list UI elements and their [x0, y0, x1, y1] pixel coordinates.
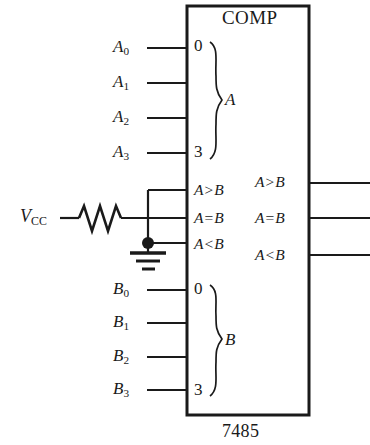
input-label-a1-sub: 1: [123, 80, 129, 92]
pin-number-b-first: 0: [194, 280, 203, 297]
output-label-a-lt-b: A<B: [255, 247, 285, 263]
device-part-number: 7485: [222, 422, 259, 440]
input-label-a2-sub: 2: [123, 115, 129, 127]
input-label-b0: B0: [113, 280, 129, 299]
input-label-b2: B2: [113, 347, 129, 366]
supply-label-vcc: VCC: [20, 207, 47, 228]
input-label-b1: B1: [113, 313, 129, 332]
group-label-b: B: [225, 331, 235, 348]
pin-number-a-last: 3: [194, 143, 203, 160]
input-label-b3: B3: [113, 380, 129, 399]
output-label-a-gt-b: A>B: [255, 174, 285, 190]
input-label-b2-base: B: [113, 346, 123, 365]
input-label-a3: A3: [113, 143, 129, 162]
input-label-a1: A1: [113, 73, 129, 92]
cascade-input-label-a-eq-b: A=B: [194, 210, 224, 226]
input-label-a2-base: A: [113, 107, 123, 126]
output-gt-operator: >: [264, 173, 275, 190]
input-label-a0-base: A: [113, 37, 123, 56]
device-title: COMP: [222, 8, 277, 27]
cascade-in-gt-operator: >: [203, 181, 214, 198]
input-label-b3-base: B: [113, 379, 123, 398]
output-lt-operator: <: [264, 246, 275, 263]
output-label-a-eq-b: A=B: [255, 210, 285, 226]
pin-number-b-last: 3: [194, 381, 203, 398]
output-eq-operator: =: [264, 209, 275, 226]
input-label-b3-sub: 3: [123, 387, 129, 399]
supply-label-sub: CC: [31, 214, 47, 228]
input-label-b0-base: B: [113, 279, 123, 298]
schematic-vector-layer: [0, 0, 370, 445]
output-eq-right: B: [275, 209, 284, 226]
input-label-a1-base: A: [113, 72, 123, 91]
cascade-in-eq-right: B: [214, 209, 223, 226]
output-gt-right: B: [275, 173, 284, 190]
cascade-input-label-a-gt-b: A>B: [194, 182, 224, 198]
input-label-b2-sub: 2: [123, 354, 129, 366]
pin-number-a-first: 0: [194, 37, 203, 54]
cascade-in-eq-operator: =: [203, 209, 214, 226]
input-label-a3-base: A: [113, 142, 123, 161]
input-label-a2: A2: [113, 108, 129, 127]
schematic-canvas: COMP 7485 A0 A1 A2 A3 0 3 A B0 B1 B2 B3 …: [0, 0, 370, 445]
input-label-a3-sub: 3: [123, 150, 129, 162]
cascade-in-lt-right: B: [214, 235, 223, 252]
input-label-b1-sub: 1: [123, 320, 129, 332]
supply-label-base: V: [20, 206, 31, 226]
cascade-input-label-a-lt-b: A<B: [194, 236, 224, 252]
output-lt-right: B: [275, 246, 284, 263]
resistor-zigzag: [79, 206, 121, 231]
input-label-a0-sub: 0: [123, 45, 129, 57]
group-label-a: A: [225, 91, 235, 108]
input-label-b1-base: B: [113, 312, 123, 331]
cascade-in-lt-operator: <: [203, 235, 214, 252]
input-label-b0-sub: 0: [123, 287, 129, 299]
junction-dot: [142, 237, 154, 249]
cascade-in-gt-right: B: [214, 181, 223, 198]
input-label-a0: A0: [113, 38, 129, 57]
